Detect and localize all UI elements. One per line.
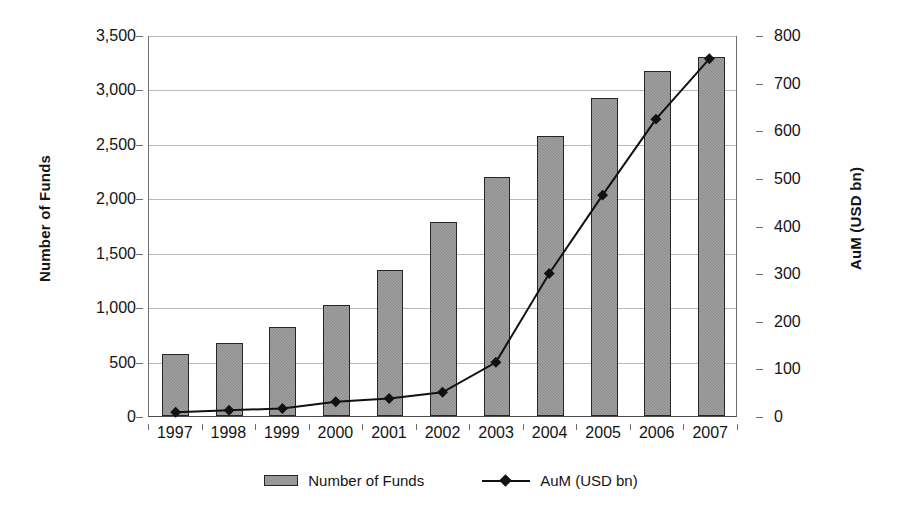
- x-axis-tickmark: [148, 424, 149, 430]
- x-axis-tick-label: 2002: [425, 424, 461, 442]
- x-axis-tick-label: 2005: [585, 424, 621, 442]
- x-axis-tickmark: [362, 424, 363, 430]
- legend-label-aum: AuM (USD bn): [540, 472, 638, 489]
- y-axis-right-tick-label: 800: [774, 27, 801, 45]
- x-axis-tick-label: 2000: [318, 424, 354, 442]
- chart-container: Number of Funds AuM (USD bn) 05001,0001,…: [0, 0, 902, 526]
- x-axis-tickmark: [416, 424, 417, 430]
- y-axis-right-tick-label: 400: [774, 218, 801, 236]
- y-axis-left-tick-label: 500: [109, 354, 136, 372]
- x-axis-tickmark: [630, 424, 631, 430]
- bar: [591, 98, 618, 416]
- bar: [269, 327, 296, 416]
- x-axis-tick-label: 2001: [371, 424, 407, 442]
- line-marker-swatch-icon: [482, 475, 530, 487]
- legend-item-number-of-funds: Number of Funds: [264, 472, 424, 489]
- y-axis-left-tickmark: [136, 199, 143, 200]
- chart-legend: Number of Funds AuM (USD bn): [0, 472, 902, 489]
- y-axis-left-tick-label: 2,000: [96, 190, 136, 208]
- y-axis-right-tickmark: [756, 369, 763, 370]
- x-axis-tick-label: 1997: [157, 424, 193, 442]
- x-axis-tickmark: [255, 424, 256, 430]
- x-axis-tick-label: 2003: [478, 424, 514, 442]
- y-axis-right-tickmark: [756, 36, 763, 37]
- y-axis-right-tickmark: [756, 417, 763, 418]
- y-axis-right-tickmark: [756, 84, 763, 85]
- x-axis-tickmark: [737, 424, 738, 430]
- y-axis-left-tickmark: [136, 417, 143, 418]
- gridline: [149, 36, 736, 37]
- y-axis-right-tickmark: [756, 179, 763, 180]
- bar: [323, 305, 350, 416]
- y-axis-left-tickmark: [136, 36, 143, 37]
- x-axis-labels: 1997199819992000200120022003200420052006…: [148, 424, 737, 452]
- y-axis-left-tickmark: [136, 90, 143, 91]
- y-axis-right-tick-label: 600: [774, 122, 801, 140]
- bar-swatch-icon: [264, 475, 298, 486]
- bar: [216, 343, 243, 416]
- y-axis-right-tick-label: 500: [774, 170, 801, 188]
- y-axis-right-tickmark: [756, 131, 763, 132]
- x-axis-tick-label: 1999: [264, 424, 300, 442]
- y-axis-right-ticks: 0100200300400500600700800: [752, 36, 822, 417]
- y-axis-left-tickmark: [136, 308, 143, 309]
- x-axis-tickmark: [576, 424, 577, 430]
- bar: [377, 270, 404, 416]
- x-axis-tickmark: [683, 424, 684, 430]
- bar: [698, 57, 725, 416]
- y-axis-left-tick-label: 2,500: [96, 136, 136, 154]
- x-axis-tick-label: 2004: [532, 424, 568, 442]
- y-axis-right-tick-label: 100: [774, 360, 801, 378]
- y-axis-left-tick-label: 3,500: [96, 27, 136, 45]
- y-axis-right-tick-label: 300: [774, 265, 801, 283]
- y-axis-right-tick-label: 700: [774, 75, 801, 93]
- y-axis-left-tick-label: 1,000: [96, 299, 136, 317]
- y-axis-left-tickmark: [136, 145, 143, 146]
- bar: [162, 354, 189, 416]
- bar: [644, 71, 671, 416]
- bar: [430, 222, 457, 416]
- legend-label-number-of-funds: Number of Funds: [308, 472, 424, 489]
- x-axis-tickmark: [523, 424, 524, 430]
- x-axis-tick-label: 2006: [639, 424, 675, 442]
- bar: [537, 136, 564, 416]
- legend-item-aum: AuM (USD bn): [482, 472, 638, 489]
- bar: [484, 177, 511, 416]
- y-axis-right-title: AuM (USD bn): [847, 139, 864, 299]
- y-axis-right-tick-label: 0: [774, 408, 783, 426]
- y-axis-right-tick-label: 200: [774, 313, 801, 331]
- y-axis-right-tickmark: [756, 322, 763, 323]
- y-axis-left-tickmark: [136, 254, 143, 255]
- y-axis-left-ticks: 05001,0001,5002,0002,5003,0003,500: [40, 36, 136, 417]
- x-axis-tickmark: [469, 424, 470, 430]
- x-axis-tick-label: 2007: [692, 424, 728, 442]
- y-axis-left-tickmark: [136, 363, 143, 364]
- x-axis-tick-label: 1998: [211, 424, 247, 442]
- y-axis-left-tick-label: 1,500: [96, 245, 136, 263]
- x-axis-tickmark: [202, 424, 203, 430]
- x-axis-tickmark: [309, 424, 310, 430]
- y-axis-right-tickmark: [756, 227, 763, 228]
- y-axis-right-tickmark: [756, 274, 763, 275]
- plot-area: [148, 36, 737, 417]
- y-axis-left-tick-label: 0: [127, 408, 136, 426]
- y-axis-left-tick-label: 3,000: [96, 81, 136, 99]
